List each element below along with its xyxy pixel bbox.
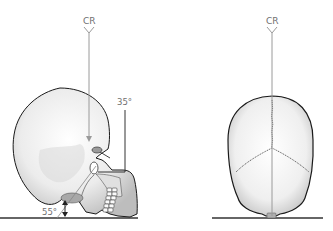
cr-label-left: CR (83, 16, 96, 26)
skull-positioning-diagram: CR 35° 55° CR (0, 0, 333, 231)
cr-source-chevron-right (267, 27, 277, 33)
cr-label-right: CR (266, 16, 279, 26)
diagram-canvas: CR 35° 55° CR (0, 0, 333, 231)
angle-35-label: 35° (117, 97, 132, 107)
posterior-skull-view: CR (212, 16, 323, 218)
arrow-head-down (62, 212, 68, 217)
angle-55-label: 55° (42, 207, 57, 217)
posterior-cranium (228, 96, 313, 216)
cr-source-chevron-left (84, 27, 94, 33)
clinoid-process (100, 152, 110, 158)
lateral-skull-view: CR 35° 55° (0, 16, 138, 218)
